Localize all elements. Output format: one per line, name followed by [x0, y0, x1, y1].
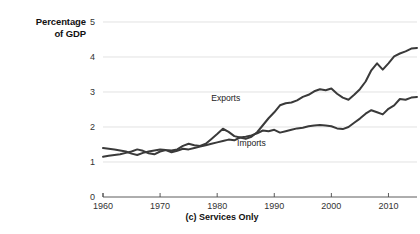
x-tick-label-2010: 2010	[378, 201, 398, 211]
x-tick-label-1970: 1970	[150, 201, 170, 211]
y-axis-title-line1: Percentage	[8, 16, 86, 28]
y-tick-label-2: 2	[90, 122, 95, 132]
y-tick-label-3: 3	[90, 87, 95, 97]
series-label-exports: Exports	[211, 93, 240, 103]
y-axis-title-line2: of GDP	[8, 28, 86, 40]
x-tick-label-2000: 2000	[321, 201, 341, 211]
y-axis-title: Percentage of GDP	[8, 16, 86, 39]
x-tick-labels-group: 196019701980199020002010	[93, 201, 398, 211]
x-tick-label-1960: 1960	[93, 201, 113, 211]
x-tick-label-1980: 1980	[207, 201, 227, 211]
figure-caption-text: (c) Services Only	[185, 212, 258, 222]
figure-caption: (c) Services Only	[0, 212, 420, 222]
y-tick-label-4: 4	[90, 52, 95, 62]
series-label-imports: Imports	[237, 138, 266, 148]
y-tick-label-1: 1	[90, 157, 95, 167]
series-annotations-group: ExportsImports	[211, 93, 266, 149]
chart-figure: Percentage of GDP 012345 196019701980199…	[0, 0, 420, 234]
x-tick-label-1990: 1990	[264, 201, 284, 211]
y-tick-label-5: 5	[90, 17, 95, 27]
y-tick-labels-group: 012345	[90, 17, 95, 202]
axis-lines-group	[103, 193, 417, 197]
